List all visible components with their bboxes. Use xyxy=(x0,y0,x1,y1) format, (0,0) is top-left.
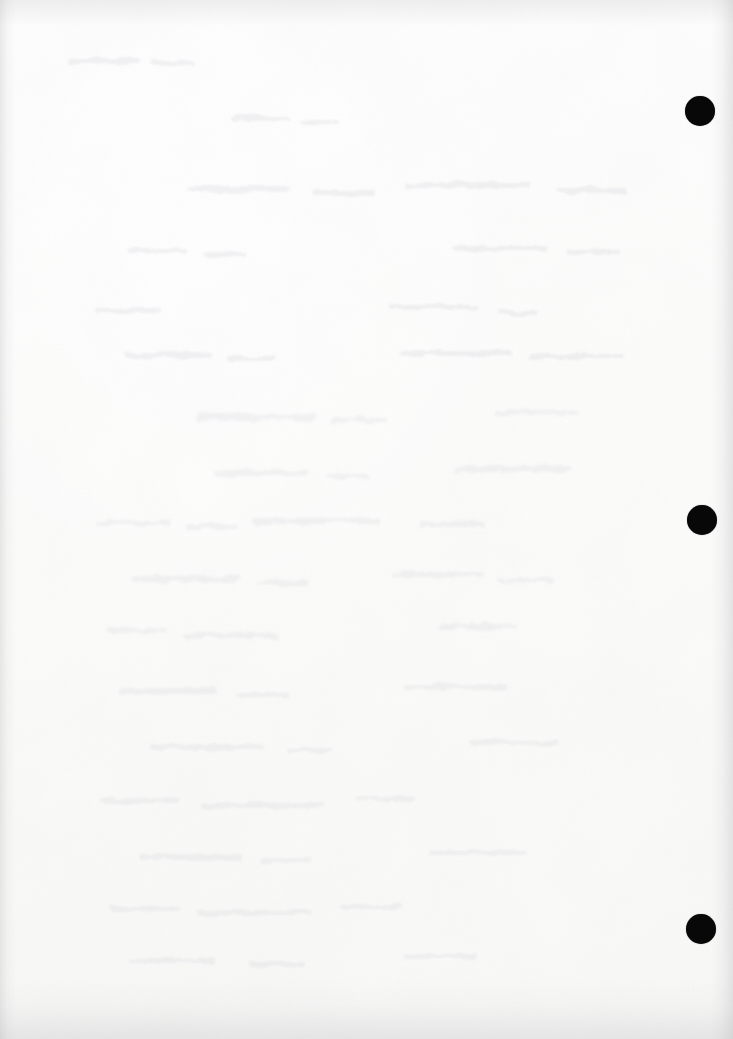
punch-mark-top xyxy=(685,96,715,126)
scan-edge-shadow-top xyxy=(0,0,733,26)
paper-grain-texture xyxy=(0,0,733,1039)
scan-edge-shadow-left xyxy=(0,0,16,1039)
punch-mark-bottom xyxy=(686,914,716,944)
scanned-page xyxy=(0,0,733,1039)
punch-mark-middle xyxy=(687,505,717,535)
scan-edge-shadow-bottom xyxy=(0,979,733,1039)
